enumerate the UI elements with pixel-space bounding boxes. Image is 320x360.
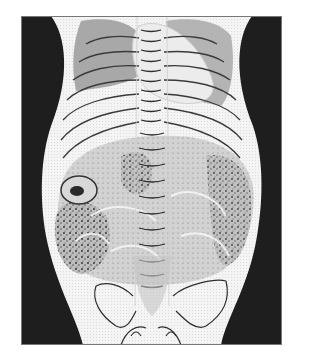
bowel-dense-center [121,152,152,194]
abdominal-xray-illustration [21,16,282,345]
